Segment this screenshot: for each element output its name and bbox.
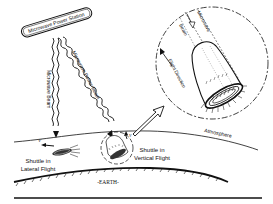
flight-direction-label: Flight Direction <box>167 58 187 89</box>
microwave-power-beam-right: Microwave Power Beam <box>58 37 114 138</box>
microwave-power-beam-label: Microwave Power Beam <box>71 50 102 100</box>
inset-detail: Microwave Beam Flight Direction <box>156 7 268 119</box>
vertical-velocity-label: V <box>129 133 132 138</box>
vertical-shuttle-label-line2: Vertical Flight <box>134 155 170 161</box>
microwave-beam-label: Microwave Beam <box>46 70 52 108</box>
flight-direction-arrow-icon <box>160 48 165 55</box>
microwave-beam-left: Microwave Beam <box>46 38 59 138</box>
lateral-shuttle-label-line2: Lateral Flight <box>21 166 56 172</box>
vertical-shuttle-label-line1: Shuttle in <box>139 147 164 153</box>
inset-beam-label: Beam <box>178 23 188 36</box>
vertical-velocity-arrow-icon <box>124 131 128 136</box>
lateral-shuttle-label-line1: Shuttle in <box>25 158 50 164</box>
inset-microwave-label: Microwave <box>196 10 211 33</box>
earth-label: -EARTH- <box>97 179 119 185</box>
shuttle-lateral: V Shuttle in Lateral Flight <box>21 138 80 172</box>
lateral-velocity-arrow-icon <box>41 143 46 147</box>
power-station: Microwave Power Station <box>20 6 93 38</box>
microwave-shuttle-diagram: Microwave Power Station Microwave Beam M… <box>0 0 273 204</box>
